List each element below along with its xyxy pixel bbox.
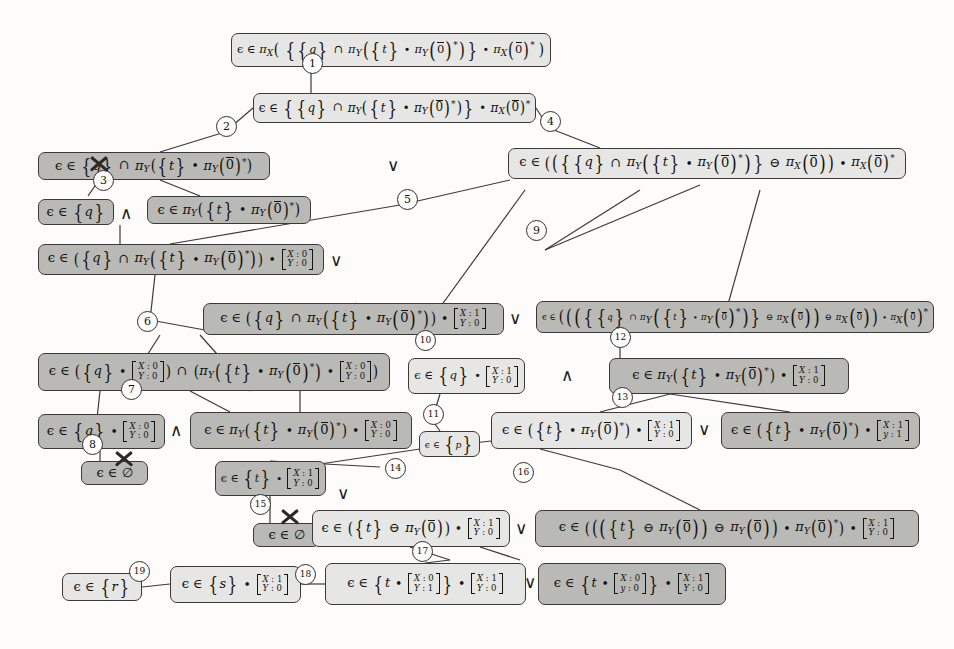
connective-or-0: ∨ xyxy=(387,155,399,175)
closed-branch-x-icon-0 xyxy=(88,153,110,175)
edge-label-12: 12 xyxy=(610,327,631,348)
connective-or-6: ∨ xyxy=(698,419,710,439)
formula-text: ϵ ∈ {t ∙ X : 0y : 0} ∙ X : 1Y : 0 xyxy=(554,573,711,594)
closed-branch-x-icon-1 xyxy=(113,448,135,470)
edge-label-19: 19 xyxy=(129,561,150,582)
edge-label-14: 14 xyxy=(385,458,406,479)
connective-and-5: ∧ xyxy=(170,420,182,440)
edge-label-5: 5 xyxy=(397,189,418,210)
formula-text: ϵ ∈ {q} ∙ X : 1Y : 0 xyxy=(414,365,519,386)
formula-text: ϵ ∈ ({t} ⊖ πY(0)) ∙ X : 1Y : 0 xyxy=(321,518,500,539)
edge-label-7: 7 xyxy=(121,379,142,400)
formula-node-n9[interactable]: ϵ ∈ ((({{q} ∩ πY({t} ∙ πY(0)*)} ⊖ πX(0))… xyxy=(536,301,934,333)
formula-node-n19[interactable]: ϵ ∈ {t} ∙ X : 1Y : 0 xyxy=(215,461,326,496)
formula-text: ϵ ∈ ({q} ∩ πY({t} ∙ πY(0)*)) ∙ X : 1Y : … xyxy=(220,307,487,331)
formula-text: ϵ ∈ {q} xyxy=(47,202,106,223)
edge-label-17: 17 xyxy=(412,541,433,562)
formula-text: ϵ ∈ πX( {{q} ∩ πY({t} ∙ πY(0)*)} ∙ πX(0)… xyxy=(237,38,545,62)
edge-label-4: 4 xyxy=(540,111,561,132)
formula-text: ϵ ∈ ((({{q} ∩ πY({t} ∙ πY(0)*)} ⊖ πX(0))… xyxy=(542,305,928,329)
connective-or-7: ∨ xyxy=(337,483,349,503)
proof-tree-diagram: ϵ ∈ πX( {{q} ∩ πY({t} ∙ πY(0)*)} ∙ πX(0)… xyxy=(0,0,954,649)
closed-branch-x-icon-2 xyxy=(279,506,301,528)
edge-label-11: 11 xyxy=(423,404,444,425)
formula-node-n1[interactable]: ϵ ∈ πX( {{q} ∩ πY({t} ∙ πY(0)*)} ∙ πX(0)… xyxy=(231,33,551,67)
connective-and-1: ∧ xyxy=(120,203,132,223)
formula-node-n7[interactable]: ϵ ∈ ({q} ∩ πY({t} ∙ πY(0)*)) ∙ X : 0Y : … xyxy=(38,244,324,275)
formula-text: ϵ ∈ πY({t} ∙ πY(0)*) ∙ X : 0Y : 0 xyxy=(204,420,398,441)
formula-text: ϵ ∈ {{q} ∩ πY({t} ∙ πY(0)*)} ∙ πX(0)* xyxy=(259,98,530,119)
formula-text: ϵ ∈ {t ∙ X : 0Y : 1} ∙ X : 1Y : 0 xyxy=(347,573,504,594)
edge-label-16: 16 xyxy=(513,462,534,483)
formula-node-n15[interactable]: ϵ ∈ {p} xyxy=(419,431,480,457)
connective-and-4: ∧ xyxy=(561,365,573,385)
formula-node-n10[interactable]: ϵ ∈ ({q} ∙ X : 0Y : 0) ∩ (πY({t} ∙ πY(0)… xyxy=(38,353,390,391)
edge-label-13: 13 xyxy=(612,387,633,408)
formula-text: ϵ ∈ ((({t} ⊖ πY(0)) ⊖ πY(0)) ∙ πY(0)*) ∙… xyxy=(559,516,896,540)
formula-node-n8[interactable]: ϵ ∈ ({q} ∩ πY({t} ∙ πY(0)*)) ∙ X : 1Y : … xyxy=(203,303,504,335)
formula-text: ϵ ∈ ({t} ∙ πY(0)*) ∙ X : 1Y : 0 xyxy=(502,420,681,441)
formula-node-n5[interactable]: ϵ ∈ {q} xyxy=(38,199,114,225)
formula-node-n3[interactable]: ϵ ∈ {q} ∩ πY({t} ∙ πY(0)*) xyxy=(38,152,270,180)
formula-text: ϵ ∈ {q} ∩ πY({t} ∙ πY(0)*) xyxy=(55,156,253,177)
formula-text: ϵ ∈ {r} xyxy=(74,577,131,598)
formula-text: ϵ ∈ ({t} ∙ πY(0)*) ∙ X : 1y : 1 xyxy=(731,420,910,441)
formula-node-n25[interactable]: ϵ ∈ {t ∙ X : 0Y : 1} ∙ X : 1Y : 0 xyxy=(325,563,526,605)
formula-node-n14[interactable]: ϵ ∈ πY({t} ∙ πY(0)*) ∙ X : 0Y : 0 xyxy=(190,412,412,449)
formula-node-n22[interactable]: ϵ ∈ ((({t} ⊖ πY(0)) ⊖ πY(0)) ∙ πY(0)*) ∙… xyxy=(535,510,919,547)
connective-or-9: ∨ xyxy=(524,572,536,592)
edge-label-10: 10 xyxy=(415,330,436,351)
edge-label-6: 6 xyxy=(137,311,158,332)
edge-label-8: 8 xyxy=(82,434,103,455)
formula-node-n26[interactable]: ϵ ∈ {t ∙ X : 0y : 0} ∙ X : 1Y : 0 xyxy=(538,563,726,605)
formula-node-n16[interactable]: ϵ ∈ ({t} ∙ πY(0)*) ∙ X : 1Y : 0 xyxy=(491,412,692,449)
connective-or-3: ∨ xyxy=(509,308,521,328)
formula-text: ϵ ∈ (({{q} ∩ πY({t} ∙ πY(0)*)} ⊖ πX(0)) … xyxy=(519,151,894,175)
formula-node-n11[interactable]: ϵ ∈ {q} ∙ X : 1Y : 0 xyxy=(408,358,525,394)
formula-node-n17[interactable]: ϵ ∈ ({t} ∙ πY(0)*) ∙ X : 1y : 1 xyxy=(721,412,920,449)
formula-node-n4[interactable]: ϵ ∈ (({{q} ∩ πY({t} ∙ πY(0)*)} ⊖ πX(0)) … xyxy=(508,148,906,179)
formula-node-n6[interactable]: ϵ ∈ πY({t} ∙ πY(0)*) xyxy=(147,196,311,224)
connective-or-8: ∨ xyxy=(515,518,527,538)
edge-label-18: 18 xyxy=(295,564,316,585)
formula-node-n21[interactable]: ϵ ∈ ({t} ⊖ πY(0)) ∙ X : 1Y : 0 xyxy=(312,510,510,547)
formula-node-n24[interactable]: ϵ ∈ {s} ∙ X : 1Y : 0 xyxy=(170,566,301,603)
connective-or-2: ∨ xyxy=(330,250,342,270)
edge-label-15: 15 xyxy=(250,494,271,515)
edge-label-2: 2 xyxy=(216,116,237,137)
formula-text: ϵ ∈ ∅ xyxy=(268,528,304,542)
formula-text: ϵ ∈ ({q} ∩ πY({t} ∙ πY(0)*)) ∙ X : 0Y : … xyxy=(48,247,315,271)
formula-text: ϵ ∈ πY({t} ∙ πY(0)*) xyxy=(157,200,300,221)
formula-node-n2[interactable]: ϵ ∈ {{q} ∩ πY({t} ∙ πY(0)*)} ∙ πX(0)* xyxy=(253,93,536,123)
edge-label-1: 1 xyxy=(302,53,323,74)
formula-text: ϵ ∈ {p} xyxy=(425,434,474,455)
formula-text: ϵ ∈ {t} ∙ X : 1Y : 0 xyxy=(221,468,320,489)
formula-text: ϵ ∈ πY({t} ∙ πY(0)*) ∙ X : 1Y : 0 xyxy=(632,365,826,386)
edge-label-9: 9 xyxy=(526,220,547,241)
formula-text: ϵ ∈ ({q} ∙ X : 0Y : 0) ∩ (πY({t} ∙ πY(0)… xyxy=(49,360,379,384)
formula-node-n12[interactable]: ϵ ∈ πY({t} ∙ πY(0)*) ∙ X : 1Y : 0 xyxy=(609,358,849,394)
formula-text: ϵ ∈ {s} ∙ X : 1Y : 0 xyxy=(182,574,290,595)
